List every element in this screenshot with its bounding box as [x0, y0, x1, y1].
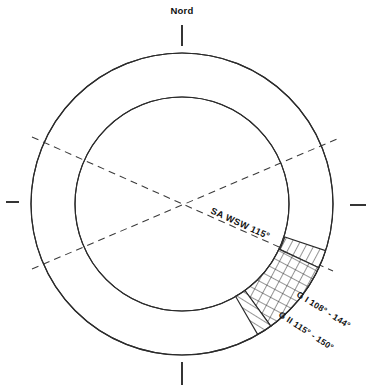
north-label: Nord: [171, 5, 194, 16]
inner-circle-overlay: [75, 97, 289, 311]
diagram-root: Nord SA WSW 115° G I 108° - 144° G II 11…: [0, 0, 370, 392]
inner-circle: [75, 97, 289, 311]
wind-rose-figure: Nord SA WSW 115° G I 108° - 144° G II 11…: [0, 0, 370, 392]
axis-sa-wsw-label: SA WSW 115°: [209, 206, 271, 242]
